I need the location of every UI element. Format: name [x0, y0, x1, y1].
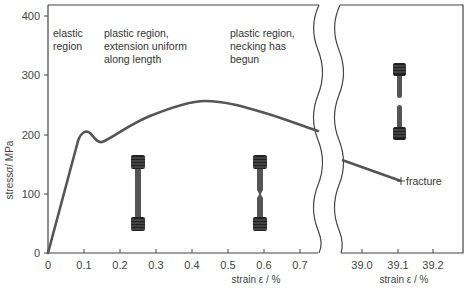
- svg-text:region: region: [53, 40, 82, 52]
- y-tick-100: 100: [22, 188, 40, 200]
- svg-text:extension uniform: extension uniform: [104, 40, 187, 52]
- specimen-fractured-icon: [393, 63, 406, 140]
- specimen-uniform-icon: [131, 155, 145, 231]
- fracture-label: fracture: [406, 175, 442, 187]
- y-tick-400: 400: [22, 10, 40, 22]
- x-tick-39.2: 39.2: [422, 259, 443, 271]
- annotation-uniform-extension: plastic region, extension uniform along …: [104, 27, 187, 65]
- x-tick-0.5: 0.5: [220, 259, 235, 271]
- x-tick-39.1: 39.1: [387, 259, 408, 271]
- svg-text:necking has: necking has: [230, 40, 286, 52]
- x-tick-0.4: 0.4: [184, 259, 199, 271]
- x-tick-39.0: 39.0: [351, 259, 372, 271]
- stress-strain-curve-right: [342, 160, 401, 181]
- annotation-necking: plastic region, necking has begun: [230, 27, 295, 65]
- y-tick-0: 0: [34, 247, 40, 259]
- specimen-necking-icon: [253, 155, 267, 231]
- y-tick-300: 300: [22, 69, 40, 81]
- x-tick-0.7: 0.7: [292, 259, 307, 271]
- svg-text:plastic region,: plastic region,: [230, 27, 295, 39]
- y-axis-label: stressσ/ MPa: [4, 140, 15, 199]
- svg-text:along length: along length: [104, 53, 161, 65]
- fracture-marker-icon: [397, 177, 405, 185]
- stress-strain-curve-left: [48, 101, 318, 253]
- stress-strain-chart: 0 100 200 300 400 stressσ/ MPa 0 0.1 0.2…: [0, 0, 465, 291]
- svg-text:begun: begun: [230, 53, 259, 65]
- x-tick-0.1: 0.1: [76, 259, 91, 271]
- x-tick-0.2: 0.2: [112, 259, 127, 271]
- x-tick-0.3: 0.3: [148, 259, 163, 271]
- x-axis-label-left: strain ε / %: [232, 274, 281, 285]
- x-axis-label-right: strain ε / %: [380, 274, 429, 285]
- y-tick-200: 200: [22, 129, 40, 141]
- svg-text:plastic region,: plastic region,: [104, 27, 169, 39]
- annotation-elastic: elastic region: [53, 27, 83, 52]
- x-tick-0.6: 0.6: [256, 259, 271, 271]
- x-tick-0: 0: [45, 259, 51, 271]
- svg-text:elastic: elastic: [53, 27, 83, 39]
